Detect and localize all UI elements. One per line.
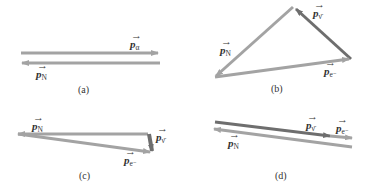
vector-arrow-accent: → — [221, 35, 232, 47]
arrow-p-antineutrino — [149, 134, 152, 151]
vector-arrow-accent: → — [229, 128, 240, 140]
vector-arrow-accent: → — [125, 145, 136, 157]
caption-b: (b) — [271, 83, 283, 95]
arrow-p-electron — [330, 136, 352, 138]
vector-arrow-accent: → — [314, 0, 325, 10]
vector-arrow-accent: → — [325, 56, 336, 68]
panel-d: pν̄ → pe⁻ → pN → (d) — [214, 110, 352, 182]
vector-arrow-accent: → — [337, 113, 348, 125]
vector-arrow-accent: → — [33, 111, 44, 123]
caption-a: (a) — [78, 84, 89, 96]
caption-d: (d) — [275, 170, 287, 182]
panel-b: pN → pν̄ → pe⁻ → (b) — [215, 0, 351, 95]
vector-arrow-accent: → — [131, 29, 142, 41]
caption-c: (c) — [79, 170, 90, 182]
arrow-p-antineutrino — [296, 9, 351, 59]
momentum-vector-diagrams: pα → pN → (a) pN → pν̄ → pe⁻ → (b) pN — [0, 0, 368, 194]
vector-arrow-accent: → — [157, 122, 168, 134]
vector-arrow-accent: → — [307, 110, 318, 122]
panel-c: pN → pν̄ → pe⁻ → (c) — [18, 111, 168, 182]
vector-arrow-accent: → — [37, 59, 48, 71]
panel-a: pα → pN → (a) — [21, 29, 160, 96]
